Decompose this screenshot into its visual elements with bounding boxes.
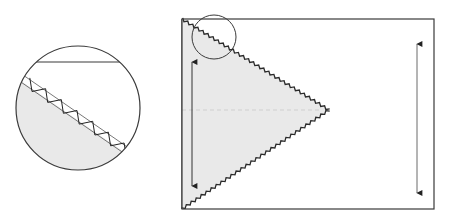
diagram-canvas [0,0,456,223]
magnified-detail-circle [9,46,147,175]
stitching-diagram [0,0,456,223]
